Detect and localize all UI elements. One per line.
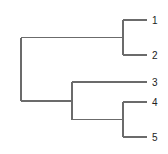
- leaf-label-5: 5: [152, 132, 158, 143]
- leaf-label-1: 1: [152, 15, 158, 26]
- leaf-label-4: 4: [152, 97, 158, 108]
- dendrogram: 1 2 3 4 5: [0, 0, 168, 154]
- leaf-label-3: 3: [152, 77, 158, 88]
- leaf-label-2: 2: [152, 50, 158, 61]
